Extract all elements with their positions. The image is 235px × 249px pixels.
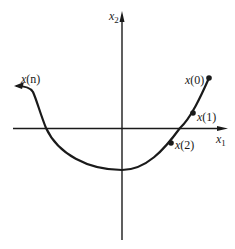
point-x1-label: x(1)	[196, 110, 216, 124]
point-x0-label: x(0)	[184, 73, 204, 87]
point-x1-marker	[190, 110, 196, 116]
x1-axis-label: x1	[215, 132, 226, 148]
x2-axis-label: x2	[108, 9, 119, 25]
point-x0-marker	[206, 75, 212, 81]
diagram-svg: x2 x1 x(0) x(1) x(2) x(n)	[0, 0, 235, 249]
point-xn-label: x(n)	[20, 72, 40, 86]
x2-axis-arrowhead-icon	[120, 11, 125, 22]
point-x2-label: x(2)	[174, 138, 194, 152]
point-x2-marker	[168, 140, 174, 146]
x1-axis-arrowhead-icon	[217, 126, 228, 131]
trajectory-diagram: x2 x1 x(0) x(1) x(2) x(n)	[0, 0, 235, 249]
trajectory-curve	[17, 78, 209, 170]
